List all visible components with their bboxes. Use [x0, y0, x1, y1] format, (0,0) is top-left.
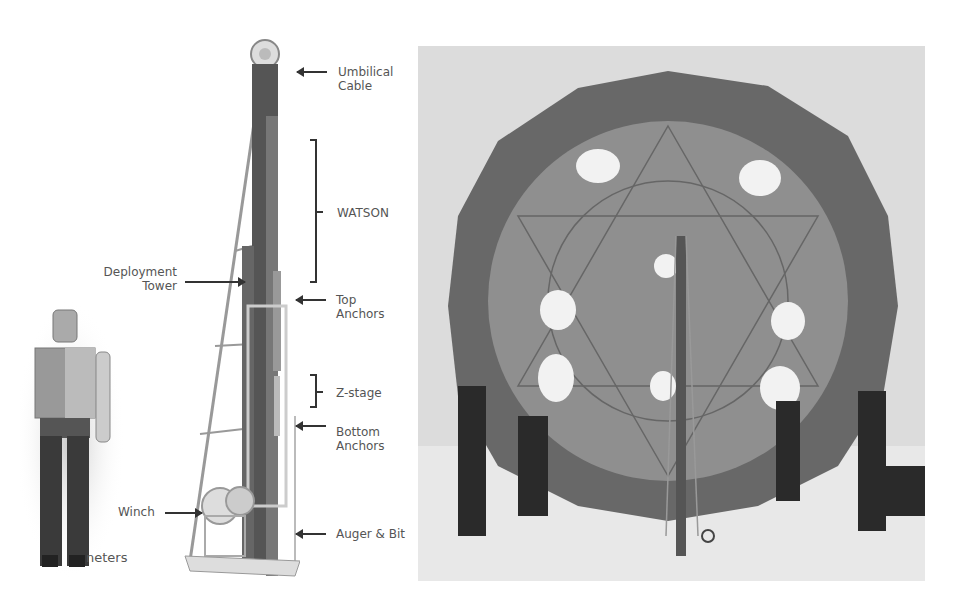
label-watson: WATSON — [337, 206, 389, 220]
label-top-anchors: Top Anchors — [336, 293, 385, 321]
umbilical-cable-arrow — [297, 71, 327, 73]
label-bottom-anchors: Bottom Anchors — [336, 425, 385, 453]
label-auger-bit: Auger & Bit — [336, 527, 405, 541]
deployment-tower-arrow — [185, 281, 245, 283]
auger-bit-arrow — [296, 533, 326, 535]
winch-arrow — [165, 512, 202, 514]
watson-brace — [310, 139, 317, 283]
label-umbilical-cable: Umbilical Cable — [338, 65, 393, 93]
field-photo — [418, 46, 925, 581]
label-z-stage: Z-stage — [336, 386, 382, 400]
deployment-tower-drawing — [180, 36, 300, 581]
label-winch: Winch — [118, 505, 155, 519]
human-scale-figure — [20, 300, 130, 580]
label-deployment-tower: Deployment Tower — [95, 265, 177, 293]
bottom-anchors-arrow — [296, 425, 326, 427]
dome-cover-photo — [418, 46, 925, 581]
top-anchors-arrow — [296, 299, 326, 301]
scale-label-partial: neters — [86, 551, 127, 565]
z-stage-brace — [310, 374, 317, 408]
